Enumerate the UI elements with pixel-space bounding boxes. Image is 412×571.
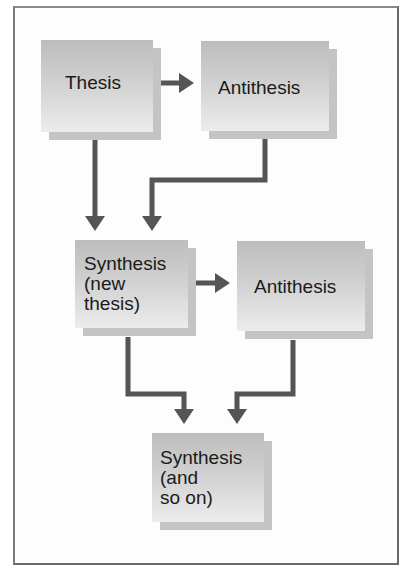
node-label: Synthesis (and so on) bbox=[160, 448, 242, 508]
node-label: Antithesis bbox=[218, 78, 300, 98]
node-synthesis-and-so-on: Synthesis (and so on) bbox=[152, 433, 264, 522]
arrow-antithesis-to-final-synthesis bbox=[237, 340, 293, 420]
node-synthesis-new-thesis: Synthesis (new thesis) bbox=[75, 240, 188, 328]
node-label: Synthesis (new thesis) bbox=[84, 254, 166, 314]
node-thesis: Thesis bbox=[41, 40, 153, 132]
node-antithesis-2: Antithesis bbox=[237, 241, 365, 331]
node-label: Antithesis bbox=[254, 277, 336, 297]
node-antithesis-1: Antithesis bbox=[201, 41, 329, 131]
node-label: Thesis bbox=[65, 73, 121, 93]
arrow-synthesis-to-final-synthesis bbox=[128, 337, 184, 420]
arrow-antithesis-to-synthesis bbox=[152, 139, 265, 227]
